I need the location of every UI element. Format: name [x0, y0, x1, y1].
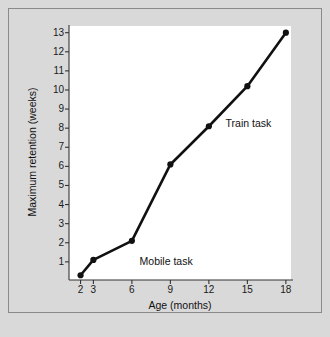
x-tick-label: 9 — [159, 285, 181, 295]
chart-figure: 12345678910111213 2369121518 Age (months… — [0, 0, 330, 337]
y-tick-label: 3 — [46, 219, 64, 229]
x-tick-label: 6 — [121, 285, 143, 295]
data-point-marker — [283, 30, 289, 36]
series-line — [81, 33, 286, 276]
data-point-marker — [77, 272, 83, 278]
y-tick-label: 10 — [46, 85, 64, 95]
x-axis-tick-labels: 2369121518 — [0, 285, 330, 299]
y-tick-label: 1 — [46, 257, 64, 267]
y-tick-label: 11 — [46, 66, 64, 76]
y-tick-label: 13 — [46, 28, 64, 38]
data-point-marker — [244, 83, 250, 89]
data-point-marker — [129, 238, 135, 244]
data-point-marker — [90, 257, 96, 263]
data-point-marker — [206, 123, 212, 129]
y-tick-label: 7 — [46, 142, 64, 152]
x-tick-label: 15 — [236, 285, 258, 295]
series-annotation-label: Train task — [226, 117, 272, 129]
y-tick-label: 4 — [46, 200, 64, 210]
y-tick-label: 8 — [46, 123, 64, 133]
y-tick-label: 2 — [46, 238, 64, 248]
y-tick-label: 6 — [46, 161, 64, 171]
y-tick-label: 9 — [46, 104, 64, 114]
y-tick-label: 12 — [46, 47, 64, 57]
y-axis-title: Maximum retention (weeks) — [26, 57, 38, 247]
x-tick-label: 12 — [198, 285, 220, 295]
data-line — [81, 33, 286, 276]
data-point-marker — [167, 161, 173, 167]
y-tick-label: 5 — [46, 180, 64, 190]
x-tick-label: 18 — [275, 285, 297, 295]
x-axis-title: Age (months) — [69, 299, 291, 311]
data-markers — [77, 30, 289, 279]
x-tick-label: 3 — [82, 285, 104, 295]
series-annotation-label: Mobile task — [140, 255, 193, 267]
